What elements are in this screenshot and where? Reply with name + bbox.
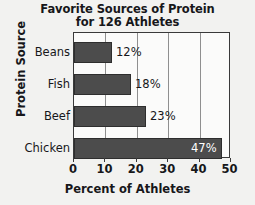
x-tick-label-10: 10 <box>89 162 119 176</box>
value-label-fish: 18% <box>135 74 161 95</box>
x-tick-label-50: 50 <box>215 162 245 176</box>
category-label-chicken: Chicken <box>0 138 70 159</box>
x-tick-label-0: 0 <box>58 162 88 176</box>
bar-beef <box>74 106 146 127</box>
x-axis-title: Percent of Athletes <box>20 182 235 196</box>
value-label-chicken: 47% <box>191 138 217 159</box>
chart-title-line-2: for 126 Athletes <box>20 16 235 29</box>
bar-chart: Favorite Sources of Protein for 126 Athl… <box>0 0 255 205</box>
x-tick-label-40: 40 <box>184 162 214 176</box>
bar-beans <box>74 42 112 63</box>
bar-fish <box>74 74 131 95</box>
x-tick-label-20: 20 <box>121 162 151 176</box>
plot-area: Beans 12% Fish 18% Beef 23% Chicken 47% <box>73 32 230 158</box>
x-tick-label-30: 30 <box>152 162 182 176</box>
chart-title: Favorite Sources of Protein for 126 Athl… <box>20 3 235 29</box>
value-label-beef: 23% <box>150 106 176 127</box>
category-label-fish: Fish <box>0 74 70 95</box>
category-label-beans: Beans <box>0 42 70 63</box>
category-label-beef: Beef <box>0 106 70 127</box>
value-label-beans: 12% <box>116 42 142 63</box>
